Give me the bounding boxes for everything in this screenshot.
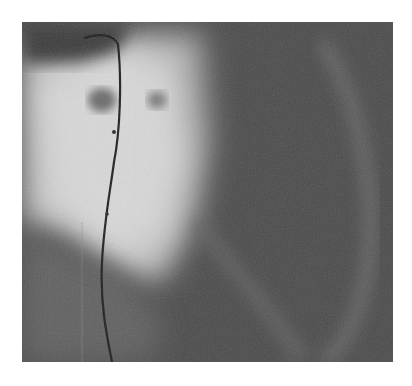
angiogram-drawing — [22, 22, 393, 362]
angiogram-image — [22, 22, 393, 362]
